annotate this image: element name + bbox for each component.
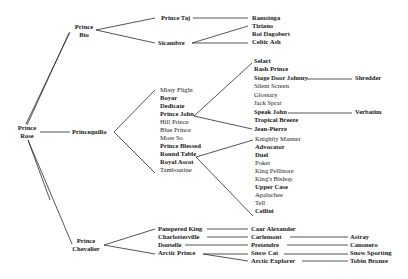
node-apalachee: Apalachee <box>255 191 283 199</box>
node-label-line2: Rose <box>14 132 40 140</box>
node-blue-prince: Blue Prince <box>160 126 191 134</box>
node-more-so: More So <box>160 134 183 142</box>
node-kings-bishop: King's Bishop <box>255 175 292 183</box>
node-pretendre: Pretendre <box>251 241 279 249</box>
node-speak-john: Speak John <box>254 108 287 116</box>
node-upper-case: Upper Case <box>255 183 288 191</box>
node-misty-flight: Misty Flight <box>160 86 193 94</box>
node-prince-chevalier: Prince Chevalier <box>69 237 103 253</box>
node-poker: Poker <box>255 159 270 167</box>
node-jack-sprat: Jack Sprat <box>254 99 281 107</box>
node-prince-blessed: Prince Blessed <box>160 142 201 150</box>
node-astray: Astray <box>350 233 369 241</box>
node-label-line2: Chevalier <box>69 245 103 253</box>
node-rash-prince: Rash Prince <box>254 65 288 73</box>
connector-lines <box>0 0 408 279</box>
node-label-line1: Prince <box>70 23 98 31</box>
node-royal-ascot: Royal Ascot <box>160 158 194 166</box>
node-arctic-explorer: Arctic Explorer <box>251 257 295 265</box>
node-duel: Duel <box>255 151 268 159</box>
node-stage-door-johnny: Stage Door Johnny <box>254 74 308 82</box>
node-silent-screen: Silent Screen <box>254 82 289 90</box>
node-label-line2: Bio <box>70 31 98 39</box>
node-label-line1: Prince <box>69 237 103 245</box>
node-prince-john: Prince John <box>160 110 194 118</box>
node-princequillo: Princequillo <box>72 128 106 136</box>
node-boyar: Boyar <box>160 94 177 102</box>
node-snow-cat: Snow Cat <box>251 249 278 257</box>
node-canonero: Canonero <box>350 241 378 249</box>
node-knightly-manner: Knightly Manner <box>255 135 301 143</box>
node-arctic-prince: Arctic Prince <box>158 249 195 257</box>
node-prince-bio: Prince Bio <box>70 23 98 39</box>
pedigree-tree-diagram: Prince Rose Prince Bio Princequillo Prin… <box>0 0 408 279</box>
node-hill-prince: Hill Prince <box>160 118 189 126</box>
node-glossary: Glossary <box>254 91 277 99</box>
node-tell: Tell <box>255 199 265 207</box>
node-tropical-breeze: Tropical Breeze <box>254 116 298 124</box>
node-prince-rose: Prince Rose <box>14 124 40 140</box>
node-roi-dagobert: Roi Dagobert <box>252 30 290 38</box>
node-charlottesville: Charlottesville <box>158 233 199 241</box>
node-shredder: Shredder <box>355 74 381 82</box>
node-cellini: Cellini <box>255 207 274 215</box>
node-selari: Selari <box>254 57 270 65</box>
node-round-table: Round Table <box>160 150 196 158</box>
node-label-line1: Prince <box>14 124 40 132</box>
node-jean-pierre: Jean-Pierre <box>254 125 287 133</box>
node-advocator: Advocator <box>255 143 285 151</box>
node-snow-sporting: Snow Sporting <box>350 249 392 257</box>
node-tobin-bronze: Tobin Bronze <box>350 257 388 265</box>
node-carlemont: Carlemont <box>251 233 281 241</box>
node-prince-taj: Prince Taj <box>161 14 190 22</box>
node-tambourine: Tambourine <box>160 166 192 174</box>
node-doutelle: Doutelle <box>158 241 181 249</box>
node-dedicate: Dedicate <box>160 102 185 110</box>
node-celtic-ash: Celtic Ash <box>252 38 281 46</box>
node-king-pellinore: King Pellinore <box>255 167 294 175</box>
node-ramsinga: Ramsinga <box>252 14 280 22</box>
node-pampered-king: Pampered King <box>158 225 202 233</box>
node-tiziano: Tiziano <box>252 22 273 30</box>
node-sicambre: Sicambre <box>158 39 185 47</box>
node-verbatim: Verbatim <box>355 108 382 116</box>
node-caar-alexander: Caar Alexander <box>251 225 296 233</box>
